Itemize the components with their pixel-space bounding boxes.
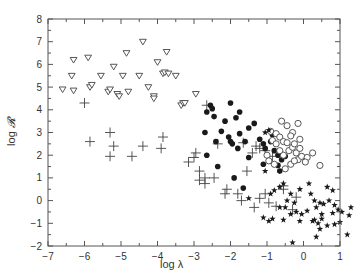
scatter-chart: −7−6−5−4−3−2−101−2−1012345678 log λ log … — [0, 0, 355, 278]
open-circle-marker — [288, 133, 294, 139]
plus-marker — [209, 173, 219, 183]
plus-marker — [255, 193, 265, 203]
star-marker — [348, 204, 354, 210]
star-marker — [319, 215, 325, 221]
plus-marker — [191, 148, 201, 158]
star-marker — [329, 210, 335, 216]
x-tick-label: −7 — [42, 251, 54, 262]
open-circle-marker — [317, 162, 323, 168]
star-marker — [287, 190, 293, 196]
plus-marker — [85, 137, 95, 147]
star-marker — [331, 202, 337, 208]
star-marker — [304, 207, 310, 213]
triangle-marker — [110, 64, 117, 70]
plus-marker — [249, 202, 259, 212]
plus-marker — [184, 157, 194, 167]
filled-circle-marker — [251, 121, 257, 127]
star-marker — [282, 204, 288, 210]
triangle-marker — [70, 57, 77, 63]
open-circle-marker — [295, 120, 301, 126]
y-tick-label: 6 — [36, 59, 42, 70]
triangle-marker — [150, 96, 157, 102]
filled-circle-marker — [202, 130, 208, 136]
x-tick-label: −6 — [79, 251, 91, 262]
filled-circle-marker — [242, 139, 248, 145]
filled-circle-marker — [237, 109, 243, 115]
x-tick-label: −2 — [225, 251, 237, 262]
plus-marker — [189, 152, 199, 162]
triangle-marker — [119, 73, 126, 79]
x-tick-label: 1 — [337, 251, 343, 262]
open-circle-marker — [310, 150, 316, 156]
triangle-marker — [59, 87, 66, 93]
x-tick-label: 0 — [301, 251, 307, 262]
filled-circle-marker — [204, 109, 210, 115]
filled-circle-marker — [261, 161, 267, 167]
filled-circle-marker — [246, 125, 252, 131]
open-circle-marker — [302, 159, 308, 165]
triangle-marker — [154, 60, 161, 66]
star-marker — [324, 184, 330, 190]
y-tick-label: 7 — [36, 36, 42, 47]
plus-marker — [260, 189, 270, 199]
star-marker — [280, 217, 286, 223]
open-circle-marker — [273, 141, 279, 147]
open-circle-marker — [297, 145, 303, 151]
y-tick-label: 4 — [36, 104, 42, 115]
plus-marker — [105, 151, 115, 161]
filled-circle-marker — [262, 146, 268, 152]
y-axis-label: log 𝓡 — [5, 116, 17, 146]
open-circle-marker — [279, 118, 285, 124]
triangle-marker — [85, 55, 92, 61]
filled-circle-marker — [237, 131, 243, 137]
star-marker — [298, 211, 304, 217]
triangle-marker — [163, 50, 170, 56]
plus-marker — [105, 128, 115, 138]
filled-circle-marker — [230, 141, 236, 147]
filled-circle-marker — [209, 106, 215, 112]
open-circle-marker — [282, 166, 288, 172]
filled-circle-marker — [228, 100, 234, 106]
star-marker — [317, 226, 323, 232]
star-marker — [308, 190, 314, 196]
plus-marker — [109, 141, 119, 151]
filled-circle-marker — [231, 175, 237, 181]
star-marker — [277, 204, 283, 210]
triangle-marker — [136, 73, 143, 79]
y-tick-label: 8 — [36, 14, 42, 25]
star-marker — [260, 214, 266, 220]
triangle-marker — [125, 89, 132, 95]
star-marker — [284, 197, 290, 203]
open-circle-marker — [277, 148, 283, 154]
triangle-marker — [123, 51, 130, 57]
triangle-marker — [192, 92, 199, 98]
triangle-marker — [70, 88, 77, 94]
triangle-marker — [68, 73, 75, 79]
star-marker — [311, 197, 317, 203]
star-marker — [346, 212, 352, 218]
plus-marker — [138, 141, 148, 151]
open-circle-marker — [297, 136, 303, 142]
filled-circle-marker — [222, 118, 228, 124]
star-marker — [289, 239, 295, 245]
star-marker — [324, 222, 330, 228]
filled-circle-marker — [219, 129, 225, 135]
series-open-triangles — [59, 39, 199, 108]
triangle-marker — [172, 73, 179, 79]
filled-circle-marker — [235, 146, 241, 152]
star-marker — [246, 195, 252, 201]
open-circle-marker — [271, 161, 277, 167]
open-circle-marker — [291, 158, 297, 164]
open-circle-marker — [284, 123, 290, 129]
plus-marker — [194, 166, 204, 176]
y-tick-label: −1 — [31, 218, 43, 229]
x-axis-label: log λ — [160, 258, 184, 270]
filled-circle-marker — [213, 139, 219, 145]
triangle-marker — [98, 73, 105, 79]
tick-labels: −7−6−5−4−3−2−101−2−1012345678 — [31, 14, 344, 263]
data-points — [59, 39, 354, 245]
filled-circle-marker — [257, 137, 263, 143]
filled-circle-marker — [215, 164, 221, 170]
plus-marker — [222, 184, 232, 194]
y-tick-label: 5 — [36, 82, 42, 93]
